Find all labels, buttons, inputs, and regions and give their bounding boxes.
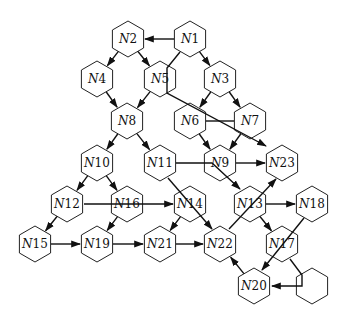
edge-n5-to-n8 [138, 92, 151, 108]
node-label: N23 [268, 156, 295, 170]
edge-n20-to-n22 [231, 257, 244, 273]
edge-n14-to-n21 [170, 217, 180, 231]
node-label: N20 [240, 279, 267, 293]
node-label: N12 [53, 197, 80, 211]
node-label: N7 [240, 114, 259, 128]
node-label: N15 [21, 237, 48, 251]
node-label: N3 [210, 72, 229, 86]
edge-n4-to-n8 [106, 92, 117, 107]
edge-n7-to-n9 [230, 134, 241, 149]
graph-canvas: N1N2N3N4N5N6N7N8N9N10N11N12N13N14N15N16N… [0, 0, 348, 320]
node-label: N21 [146, 237, 173, 251]
edge-n8-to-n11 [137, 134, 150, 150]
node-label: N19 [83, 237, 110, 251]
node-label: N14 [176, 197, 203, 211]
node-label: N5 [150, 72, 169, 86]
edge-n8-to-n10 [107, 134, 118, 149]
node-label: N11 [146, 156, 173, 170]
node-label: N18 [298, 197, 325, 211]
edge-n1-to-n3 [200, 52, 210, 66]
node-label: N2 [118, 32, 137, 46]
edge-n3-to-n6 [200, 92, 211, 107]
edge-n6-to-n9 [199, 134, 210, 149]
edge-n10-to-n16 [106, 176, 117, 190]
node-label: N6 [180, 114, 199, 128]
node-label: N8 [117, 114, 136, 128]
edge-n2-to-n5 [138, 52, 149, 66]
edge-n3-to-n7 [229, 92, 240, 107]
graph-diagram: N1N2N3N4N5N6N7N8N9N10N11N12N13N14N15N16N… [0, 0, 348, 320]
edge-n13-to-n17 [260, 217, 271, 231]
node-label: N9 [210, 156, 229, 170]
node-label: N10 [83, 156, 110, 170]
node-label: N4 [87, 72, 107, 86]
node-label: N22 [206, 237, 233, 251]
edge-n12-to-n15 [46, 217, 57, 231]
node-label: N1 [180, 32, 199, 46]
edge-n10-to-n12 [77, 176, 88, 190]
edge-n16-to-n19 [107, 217, 117, 231]
node-label: N13 [236, 197, 263, 211]
node-label: N16 [113, 197, 140, 211]
node-label: N17 [268, 237, 295, 251]
edge-n2-to-n4 [107, 52, 118, 66]
